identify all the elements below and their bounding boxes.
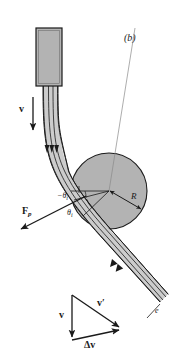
- triangle-delta-v-label: Δv: [84, 340, 95, 350]
- jet-cylinder-diagram: (b) v Fp R −θi θi e v v′ Δv: [0, 0, 172, 360]
- diagram-canvas: [0, 0, 172, 360]
- panel-label: (b): [124, 33, 136, 43]
- jet-flow-arrows-lower: [110, 259, 123, 272]
- velocity-triangle: [72, 295, 119, 340]
- incoming-velocity-label: v: [19, 104, 24, 114]
- triangle-v-label: v: [59, 310, 64, 320]
- angle-upper-label: −θi: [57, 192, 68, 201]
- force-label: Fp: [22, 206, 32, 218]
- angle-lower-label: θi: [67, 209, 73, 218]
- jet-flow-arrows-upper: [45, 145, 59, 153]
- triangle-v-prime-label: v′: [97, 298, 105, 308]
- exit-label: e: [155, 307, 159, 315]
- radius-label: R: [131, 192, 137, 201]
- nozzle-block: [36, 28, 62, 86]
